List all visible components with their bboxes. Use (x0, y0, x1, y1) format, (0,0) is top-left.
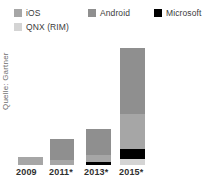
bar-2013[interactable] (86, 129, 111, 165)
legend-item-microsoft[interactable]: Microsoft (154, 9, 201, 18)
bar-2015[interactable] (120, 48, 145, 165)
bar-segment-microsoft[interactable] (86, 162, 111, 165)
bar-segment-ios[interactable] (18, 157, 43, 165)
x-tick-label-2011: 2011* (49, 168, 73, 177)
legend-label-android: Android (100, 9, 130, 18)
bar-segment-ios[interactable] (120, 114, 145, 149)
legend-item-qnx[interactable]: QNX (RIM) (14, 23, 69, 32)
legend-swatch-ios (14, 9, 22, 17)
legend-item-android[interactable]: Android (88, 9, 130, 18)
x-tick-label-2015: 2015* (119, 168, 144, 177)
bar-segment-ios[interactable] (50, 160, 74, 165)
source-note: Quelle: Gartner (1, 52, 10, 110)
x-tick-label-2009: 2009 (16, 168, 37, 177)
x-tick-label-2013: 2013* (84, 168, 109, 177)
chart-legend: iOS QNX (RIM) Android Microsoft (0, 0, 221, 40)
bar-segment-ios[interactable] (86, 155, 111, 162)
legend-label-microsoft: Microsoft (166, 9, 201, 18)
bar-segment-android[interactable] (50, 139, 74, 160)
bar-segment-qnx-rim[interactable] (120, 159, 145, 165)
bar-segment-microsoft[interactable] (120, 149, 145, 159)
legend-swatch-android (88, 9, 96, 17)
legend-label-qnx: QNX (RIM) (26, 23, 69, 32)
bar-2011[interactable] (50, 139, 74, 165)
x-axis-labels: 2009 2011* 2013* 2015* (0, 168, 221, 184)
bar-segment-android[interactable] (86, 129, 111, 155)
legend-label-ios: iOS (26, 9, 40, 18)
legend-item-ios[interactable]: iOS (14, 9, 40, 18)
chart-container: iOS QNX (RIM) Android Microsoft 2009 201… (0, 0, 221, 189)
bar-segment-android[interactable] (120, 48, 145, 114)
legend-swatch-microsoft (154, 9, 162, 17)
legend-swatch-qnx (14, 23, 22, 31)
bar-2009[interactable] (18, 157, 43, 165)
